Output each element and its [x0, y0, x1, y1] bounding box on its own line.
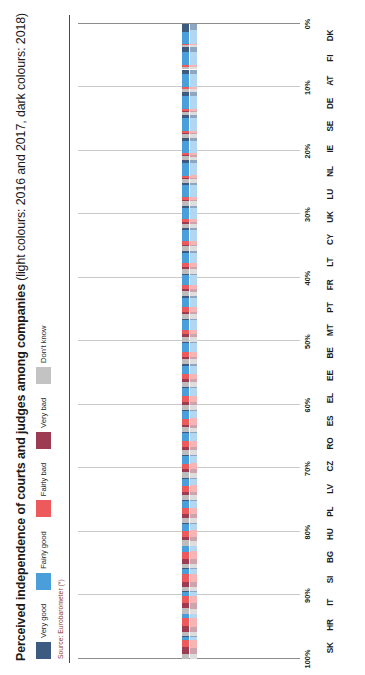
segment-very_bad — [190, 89, 197, 90]
bar-group-SI — [78, 568, 300, 591]
segment-fairly_bad — [182, 44, 189, 45]
segment-fairly_good — [182, 230, 189, 241]
segment-dont_know — [182, 405, 189, 410]
country-label-HR: HR — [326, 614, 346, 637]
x-tick-10%: 10% — [303, 80, 312, 95]
segment-fairly_bad — [190, 596, 197, 603]
legend-item-fairly-bad: Fairly bad — [36, 463, 51, 517]
bar-group-BE — [78, 342, 300, 365]
segment-fairly_bad — [190, 285, 197, 289]
country-label-AT: AT — [326, 70, 346, 93]
segment-fairly_bad — [182, 441, 189, 446]
country-label-LV: LV — [326, 478, 346, 501]
segment-dont_know — [190, 587, 197, 591]
segment-dont_know — [182, 112, 189, 115]
country-label-CZ: CZ — [326, 455, 346, 478]
country-label-FI: FI — [326, 47, 346, 70]
segment-fairly_good — [190, 569, 197, 574]
segment-fairly_bad — [190, 352, 197, 357]
segment-very_good — [182, 115, 189, 119]
segment-dont_know — [182, 359, 189, 364]
segment-dont_know — [182, 337, 189, 342]
legend-swatch-fairly-bad — [36, 500, 51, 517]
segment-fairly_bad — [182, 574, 189, 582]
segment-very_bad — [190, 178, 197, 179]
segment-very_good — [182, 319, 189, 321]
segment-fairly_bad — [182, 65, 189, 66]
segment-fairly_good — [182, 343, 189, 352]
segment-very_bad — [190, 537, 197, 541]
segment-fairly_good — [190, 119, 197, 132]
segment-very_good — [190, 160, 197, 163]
bar-NL-light — [190, 160, 197, 183]
segment-very_bad — [182, 514, 189, 518]
bar-LT-light — [190, 251, 197, 274]
bar-DK-light — [190, 24, 197, 47]
segment-very_good — [190, 523, 197, 524]
bar-EE-dark — [182, 364, 189, 387]
bar-group-HR — [78, 614, 300, 637]
segment-very_good — [182, 364, 189, 365]
bar-AT-dark — [182, 70, 189, 93]
segment-fairly_good — [190, 524, 197, 530]
segment-dont_know — [190, 473, 197, 478]
segment-very_bad — [190, 111, 197, 112]
x-tick-70%: 70% — [303, 461, 312, 476]
country-label-ES: ES — [326, 410, 346, 433]
country-label-UK: UK — [326, 206, 346, 229]
segment-very_good — [182, 70, 189, 75]
segment-fairly_bad — [190, 330, 197, 335]
bar-LU-dark — [182, 183, 189, 206]
segment-very_bad — [190, 627, 197, 632]
segment-very_bad — [182, 200, 189, 201]
segment-fairly_good — [190, 321, 197, 330]
bar-group-EE — [78, 364, 300, 387]
segment-fairly_bad — [182, 197, 189, 200]
segment-fairly_good — [190, 614, 197, 618]
bar-LT-dark — [182, 251, 189, 274]
segment-fairly_bad — [190, 508, 197, 514]
segment-dont_know — [182, 495, 189, 500]
segment-dont_know — [182, 564, 189, 569]
segment-fairly_good — [182, 479, 189, 486]
legend-swatch-dont-know — [36, 367, 51, 384]
bar-SE-light — [190, 115, 197, 138]
segment-fairly_bad — [190, 530, 197, 536]
segment-dont_know — [190, 632, 197, 636]
segment-fairly_good — [182, 411, 189, 419]
segment-fairly_good — [190, 546, 197, 551]
segment-dont_know — [182, 472, 189, 477]
legend-swatch-very-bad — [36, 432, 51, 449]
segment-dont_know — [190, 359, 197, 364]
segment-very_bad — [182, 222, 189, 223]
segment-dont_know — [182, 291, 189, 296]
bar-group-AT — [78, 70, 300, 93]
segment-very_bad — [182, 155, 189, 156]
bar-HR-light — [190, 614, 197, 637]
segment-fairly_good — [182, 614, 189, 618]
legend-swatch-fairly-good — [36, 573, 51, 590]
segment-dont_know — [182, 201, 189, 206]
segment-fairly_bad — [182, 552, 189, 559]
segment-fairly_bad — [182, 640, 189, 647]
bar-group-NL — [78, 160, 300, 183]
segment-fairly_good — [190, 185, 197, 197]
segment-very_good — [190, 410, 197, 411]
segment-dont_know — [190, 179, 197, 183]
segment-very_bad — [182, 289, 189, 291]
segment-fairly_bad — [190, 153, 197, 155]
segment-very_good — [190, 47, 197, 52]
bar-LU-light — [190, 183, 197, 206]
segment-fairly_good — [182, 119, 189, 132]
country-label-SE: SE — [326, 115, 346, 138]
segment-fairly_good — [190, 74, 197, 87]
country-label-PT: PT — [326, 296, 346, 319]
bar-NL-dark — [182, 160, 189, 183]
segment-very_good — [182, 228, 189, 230]
segment-fairly_bad — [182, 241, 189, 244]
title-main: Perceived independence of courts and jud… — [14, 284, 28, 661]
bar-group-IE — [78, 138, 300, 161]
legend-label-fairly-bad: Fairly bad — [39, 463, 48, 496]
segment-fairly_bad — [190, 418, 197, 424]
bar-group-UK — [78, 206, 300, 229]
